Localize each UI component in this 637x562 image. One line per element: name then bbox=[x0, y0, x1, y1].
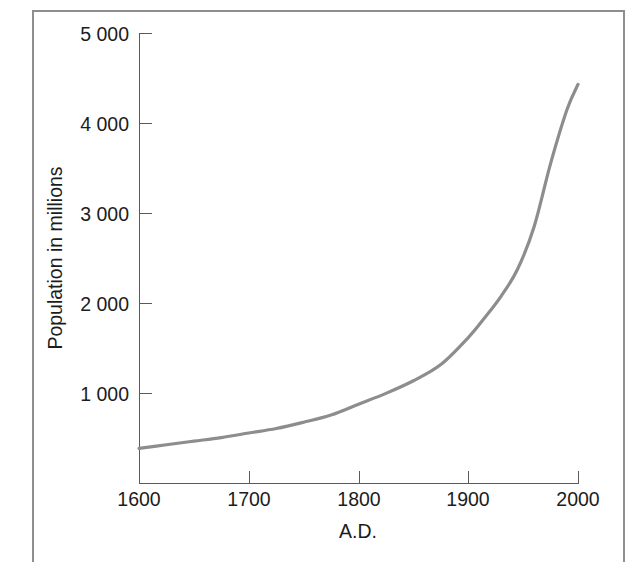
y-tick-label-4000: 4 000 bbox=[80, 113, 129, 135]
y-tick-label-1000: 1 000 bbox=[80, 383, 129, 405]
x-tick-label-1800: 1800 bbox=[337, 488, 381, 510]
y-axis-tick-labels: 5 000 4 000 3 000 2 000 1 000 bbox=[80, 23, 129, 405]
x-tick-label-1900: 1900 bbox=[446, 488, 490, 510]
population-curve bbox=[139, 84, 578, 448]
y-tick-label-2000: 2 000 bbox=[80, 293, 129, 315]
chart-svg: 5 000 4 000 3 000 2 000 1 000 1600 1700 … bbox=[0, 0, 637, 562]
y-tick-label-5000: 5 000 bbox=[80, 23, 129, 45]
y-tick-label-3000: 3 000 bbox=[80, 203, 129, 225]
y-axis-title: Population in millions bbox=[44, 166, 66, 349]
x-axis-tick-labels: 1600 1700 1800 1900 2000 bbox=[117, 488, 600, 510]
x-axis-title: A.D. bbox=[339, 520, 377, 542]
x-axis-ticks bbox=[140, 471, 579, 484]
population-growth-chart: 5 000 4 000 3 000 2 000 1 000 1600 1700 … bbox=[0, 0, 637, 562]
x-tick-label-2000: 2000 bbox=[556, 488, 600, 510]
y-axis-ticks bbox=[139, 34, 152, 394]
x-tick-label-1700: 1700 bbox=[227, 488, 271, 510]
x-tick-label-1600: 1600 bbox=[117, 488, 161, 510]
